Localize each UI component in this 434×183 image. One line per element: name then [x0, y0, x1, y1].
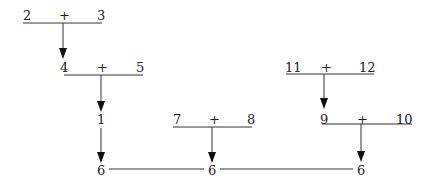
node-1: 1	[97, 112, 105, 127]
plus-4: +	[321, 60, 332, 75]
node-7: 7	[173, 112, 181, 127]
node-4: 4	[60, 60, 68, 75]
node-5: 5	[136, 60, 144, 75]
plus-5: +	[357, 112, 368, 127]
node-2: 2	[23, 8, 31, 23]
plus-3: +	[209, 112, 220, 127]
node-3: 3	[97, 8, 105, 23]
arrowhead-3	[97, 152, 105, 163]
result-6-a: 6	[97, 163, 105, 178]
result-6-c: 6	[357, 163, 365, 178]
arrowhead-6	[357, 151, 365, 162]
node-11: 11	[285, 60, 302, 75]
plus-1: +	[59, 8, 70, 23]
node-12: 12	[359, 60, 376, 75]
arrowhead-4	[208, 152, 216, 163]
node-9: 9	[320, 112, 328, 127]
arrowhead-1	[59, 48, 67, 59]
node-10: 10	[396, 112, 413, 127]
arrowhead-5	[320, 98, 328, 109]
arrowhead-2	[97, 101, 105, 112]
plus-2: +	[97, 60, 108, 75]
diagram-canvas: 2 + 3 4 + 5 1 7 + 8 11 + 12 9 + 10 6 6 6	[0, 0, 434, 183]
diagram: 2 + 3 4 + 5 1 7 + 8 11 + 12 9 + 10 6 6 6	[0, 0, 434, 183]
result-6-b: 6	[208, 163, 216, 178]
node-8: 8	[247, 112, 255, 127]
